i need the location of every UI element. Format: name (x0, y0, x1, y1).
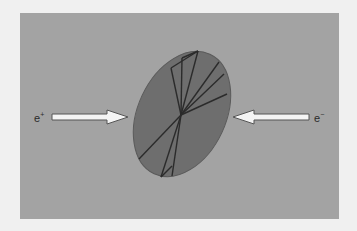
positron-label: e+ (34, 111, 44, 124)
positron-arrow-icon (52, 110, 128, 124)
electron-arrow-icon (233, 110, 309, 124)
electron-label: e− (314, 111, 324, 124)
event-disc (114, 36, 250, 193)
collision-diagram (0, 0, 357, 231)
